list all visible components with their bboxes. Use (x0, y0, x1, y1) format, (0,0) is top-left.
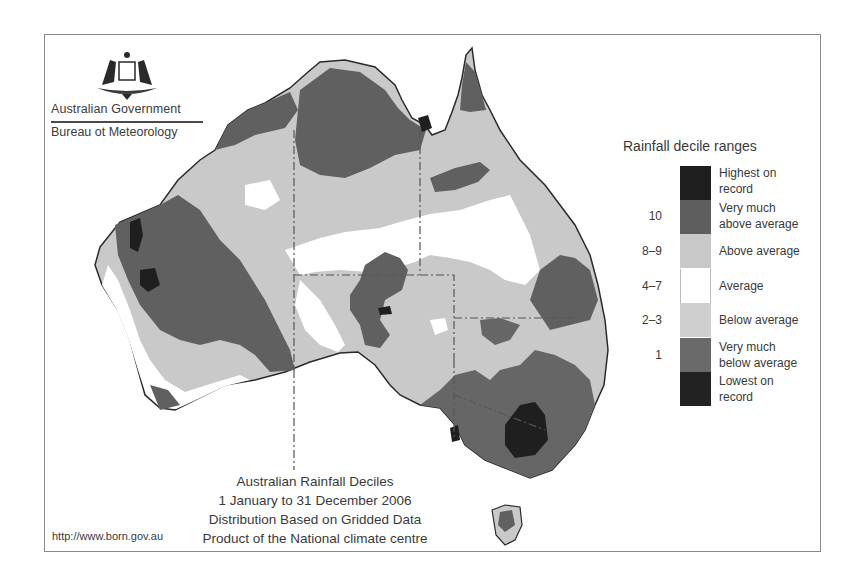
caption-credit: Product of the National climate centre (150, 529, 480, 548)
coat-of-arms-icon (92, 50, 162, 100)
legend-label-lowest: Lowest on record (719, 374, 819, 405)
legend-swatch-highest (680, 166, 711, 200)
legend-range-8-9: 8–9 (622, 244, 662, 258)
legend-range-2-3: 2–3 (622, 313, 662, 327)
legend-label-average: Average (719, 279, 819, 295)
legend-range-10: 10 (622, 209, 662, 223)
map-caption: Australian Rainfall Deciles 1 January to… (150, 472, 480, 548)
caption-period: 1 January to 31 December 2006 (150, 491, 480, 510)
legend-swatch-lowest (680, 372, 711, 406)
legend-range-1: 1 (622, 348, 662, 362)
legend-label-very-much-below: Very much below average (719, 340, 819, 371)
legend-swatch-above (680, 234, 711, 268)
government-name: Australian Government (51, 102, 181, 116)
source-url: http://www.born.gov.au (52, 530, 163, 542)
legend-swatch-average (680, 269, 711, 303)
caption-method: Distribution Based on Gridded Data (150, 510, 480, 529)
legend-label-highest: Highest on record (719, 166, 819, 197)
legend-swatch-very-much-below (680, 338, 711, 372)
legend-swatch-below (680, 303, 711, 337)
agency-name: Bureau ot Meteorology (51, 125, 177, 139)
header-divider (51, 121, 203, 123)
legend-label-very-much-above: Very much above average (719, 201, 819, 232)
legend-label-below: Below average (719, 313, 819, 329)
legend-label-above: Above average (719, 244, 819, 260)
legend-range-4-7: 4–7 (622, 279, 662, 293)
caption-title: Australian Rainfall Deciles (150, 472, 480, 491)
legend-title: Rainfall decile ranges (623, 138, 757, 154)
legend-swatch-very-much-above (680, 200, 711, 234)
